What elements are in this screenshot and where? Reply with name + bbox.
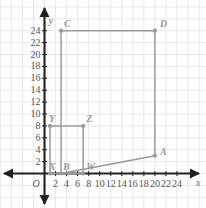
y-axis-tick-label: 20 [20, 50, 41, 60]
y-axis-tick-label: 8 [20, 121, 41, 131]
y-axis-tick-label: 18 [20, 61, 41, 71]
origin-label: O [33, 179, 40, 189]
vertex-point-d [153, 29, 157, 33]
vertex-point-c [59, 29, 63, 33]
vertex-point-y [48, 124, 52, 128]
vertex-label-c: C [64, 19, 71, 29]
vertex-label-y: Y [49, 114, 55, 124]
axis-ticks [42, 31, 177, 176]
coordinate-plane-figure: ABCDWXYZ24681012141618202224246810121416… [0, 0, 206, 208]
vertex-point-w [81, 171, 85, 175]
y-axis-tick-label: 6 [20, 133, 41, 143]
y-axis-name: y [49, 16, 53, 26]
vertex-label-b: B [63, 162, 70, 172]
y-axis-tick-label: 12 [20, 97, 41, 107]
y-axis-tick-label: 4 [20, 145, 41, 155]
vertex-point-a [153, 154, 157, 158]
vertex-point-b [59, 171, 63, 175]
y-axis-tick-label: 10 [20, 109, 41, 119]
vertex-point-z [81, 124, 85, 128]
vertex-label-z: Z [86, 114, 92, 124]
y-axis-tick-label: 14 [20, 85, 41, 95]
x-axis-name: x [196, 178, 200, 188]
y-axis-tick-label: 16 [20, 73, 41, 83]
vertex-point-x [48, 171, 52, 175]
y-axis-tick-label: 22 [20, 38, 41, 48]
vertex-label-w: W [86, 162, 95, 172]
y-axis-tick-label: 24 [20, 26, 41, 36]
vertex-label-d: D [160, 19, 167, 29]
vertex-label-x: X [49, 162, 56, 172]
vertex-label-a: A [160, 147, 167, 157]
y-axis-tick-label: 2 [20, 157, 41, 167]
x-axis-tick-label: 24 [168, 179, 186, 189]
